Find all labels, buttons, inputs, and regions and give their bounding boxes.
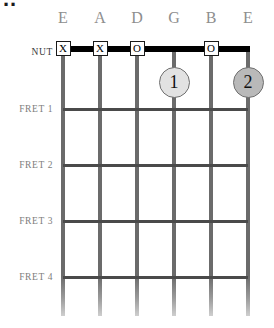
fret-label-1: FRET 1 [0,104,53,114]
fret-line-1 [63,108,248,111]
chord-diagram: .. EADGBE NUTFRET 1FRET 2FRET 3FRET 4 XX… [0,0,274,328]
open-string-marker-5: O [204,41,219,56]
string-tail-2 [98,276,102,316]
open-string-marker-3: O [130,41,145,56]
finger-dot-2: 2 [233,67,264,98]
fret-line-4 [63,276,248,279]
fret-line-2 [63,164,248,167]
finger-dot-1: 1 [159,67,190,98]
string-tail-3 [135,276,139,316]
string-label-4: G [162,9,186,27]
string-label-6: E [236,9,260,27]
string-tail-6 [246,276,250,316]
nut-bar [61,46,250,52]
muted-string-marker-2: X [93,41,108,56]
string-5 [209,46,213,276]
fret-label-3: FRET 3 [0,216,53,226]
string-tail-5 [209,276,213,316]
string-2 [98,46,102,276]
cropped-title-text: .. [3,0,17,10]
fret-label-2: FRET 2 [0,160,53,170]
string-3 [135,46,139,276]
string-label-5: B [199,9,223,27]
string-label-2: A [88,9,112,27]
string-tail-1 [61,276,65,316]
string-1 [61,46,65,276]
string-label-3: D [125,9,149,27]
muted-string-marker-1: X [56,41,71,56]
fret-label-4: FRET 4 [0,272,53,282]
string-label-1: E [51,9,75,27]
fret-line-3 [63,220,248,223]
nut-label: NUT [0,47,53,57]
string-tail-4 [172,276,176,316]
